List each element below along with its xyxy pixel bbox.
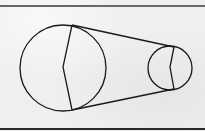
belt-top-segment xyxy=(72,25,174,47)
small-pulley-chord xyxy=(170,47,174,89)
large-pulley-chord xyxy=(63,25,72,110)
diagram-canvas xyxy=(0,0,205,131)
belt-bottom-segment xyxy=(72,89,174,110)
belt-pulley-diagram xyxy=(0,0,205,131)
